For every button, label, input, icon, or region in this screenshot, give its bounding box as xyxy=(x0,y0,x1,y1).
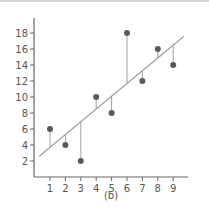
axes xyxy=(30,18,188,181)
data-point xyxy=(93,94,99,100)
data-point xyxy=(109,110,115,116)
x-tick-label: 7 xyxy=(139,183,145,194)
fit-line xyxy=(39,36,184,156)
scatter-chart: 24681012141618123456789 (b) xyxy=(0,0,209,217)
y-tick-label: 8 xyxy=(22,108,28,119)
x-tick-label: 6 xyxy=(124,183,130,194)
regression-line xyxy=(39,36,184,156)
x-tick-label: 2 xyxy=(62,183,68,194)
x-tick-label: 3 xyxy=(78,183,84,194)
y-tick-label: 12 xyxy=(15,76,28,87)
y-tick-label: 6 xyxy=(22,124,28,135)
y-tick-label: 4 xyxy=(22,140,28,151)
data-point xyxy=(78,158,84,164)
x-tick-label: 4 xyxy=(93,183,99,194)
tick-labels: 24681012141618123456789 xyxy=(15,28,176,195)
y-tick-label: 14 xyxy=(15,60,28,71)
x-tick-label: 1 xyxy=(47,183,53,194)
x-tick-label: 9 xyxy=(170,183,176,194)
y-tick-label: 10 xyxy=(15,92,28,103)
chart-caption: (b) xyxy=(104,190,118,201)
data-point xyxy=(155,46,161,52)
data-point xyxy=(124,30,130,36)
data-point xyxy=(139,78,145,84)
data-point xyxy=(170,62,176,68)
y-tick-label: 2 xyxy=(22,156,28,167)
y-tick-label: 18 xyxy=(15,28,28,39)
data-point xyxy=(62,142,68,148)
data-point xyxy=(47,126,53,132)
x-tick-label: 8 xyxy=(155,183,161,194)
y-tick-label: 16 xyxy=(15,44,28,55)
